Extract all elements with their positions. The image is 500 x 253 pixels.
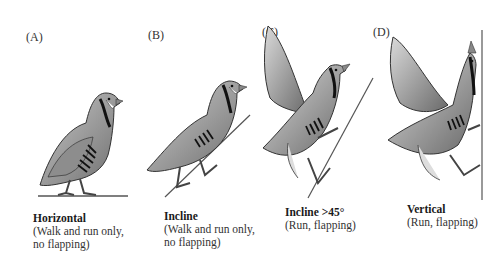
caption-vertical: Vertical (Run, flapping) [407,203,478,229]
caption-desc: (Run, flapping) [285,219,356,232]
caption-title: Incline >45° [285,206,356,219]
bird-steep-incline-illustration [258,18,373,198]
caption-steep-incline: Incline >45° (Run, flapping) [285,206,356,232]
caption-title: Vertical [407,203,478,216]
caption-desc: (Run, flapping) [407,216,478,229]
panel-label-a: (A) [26,30,43,45]
caption-desc: (Walk and run only, [164,223,255,236]
caption-title: Horizontal [33,212,124,225]
caption-desc: no flapping) [164,236,255,249]
caption-incline: Incline (Walk and run only, no flapping) [164,210,255,249]
caption-desc: (Walk and run only, [33,225,124,238]
caption-horizontal: Horizontal (Walk and run only, no flappi… [33,212,124,251]
panel-label-b: (B) [148,28,164,43]
bird-vertical-illustration [378,25,488,200]
caption-title: Incline [164,210,255,223]
bird-horizontal-illustration [18,85,128,200]
bird-incline-illustration [145,75,255,200]
caption-desc: no flapping) [33,238,124,251]
